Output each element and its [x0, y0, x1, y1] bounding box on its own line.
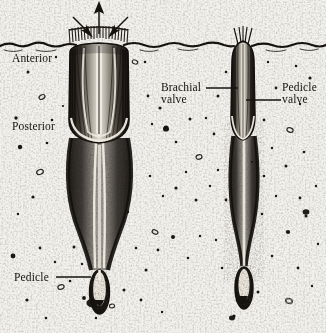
label-pedicle: Pedicle: [14, 271, 49, 284]
label-brachial-valve-line1: Brachial: [161, 81, 201, 94]
label-pedicle-valve-line2: valve: [282, 93, 308, 106]
shell-left: [69, 41, 129, 143]
label-posterior: Posterior: [12, 120, 55, 133]
label-brachial-valve-line2: valve: [161, 93, 187, 106]
brachiopod-burrow-figure: Anterior Posterior Brachial valve Pedicl…: [0, 0, 326, 333]
label-anterior: Anterior: [12, 52, 52, 65]
pedicle-bulb-left: [90, 270, 110, 314]
label-pedicle-valve-line1: Pedicle: [282, 81, 317, 94]
burrow-shaft-right: [228, 136, 260, 268]
